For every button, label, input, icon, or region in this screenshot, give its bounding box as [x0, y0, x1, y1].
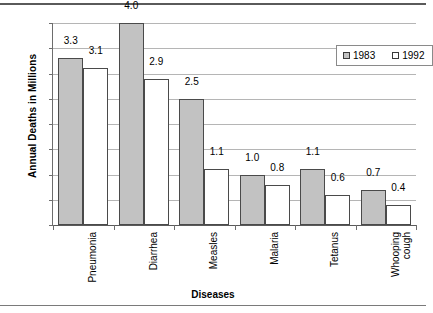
bar-value-label: 1.0: [245, 152, 259, 163]
legend-swatch-filled-square-icon: [343, 52, 350, 59]
legend-label: 1983: [353, 51, 375, 61]
bar-value-label: 2.5: [185, 76, 199, 87]
bar-value-label: 4.0: [124, 0, 138, 11]
x-tick-mark: [295, 225, 296, 230]
bar-value-label: 0.4: [391, 182, 405, 193]
bar-value-label: 3.3: [64, 35, 78, 46]
legend-item-1983: 1983: [343, 51, 375, 61]
bar: [240, 175, 265, 226]
x-tick-mark: [53, 225, 54, 230]
bar: [300, 169, 325, 225]
legend-item-1992: 1992: [392, 51, 424, 61]
x-category-label: Tetanus: [329, 232, 340, 267]
chart-legend: 1983 1992: [336, 45, 433, 66]
bar-value-label: 2.9: [149, 56, 163, 67]
bar-value-label: 0.8: [270, 162, 284, 173]
x-tick-mark: [235, 225, 236, 230]
x-tick-mark: [416, 225, 417, 230]
bar-group: 3.33.1: [53, 23, 114, 225]
x-category-label: Whooping cough: [390, 232, 412, 290]
bar: [325, 195, 350, 225]
bar: [144, 79, 169, 225]
bar-value-label: 0.6: [331, 172, 345, 183]
page-rule-bottom: [0, 305, 426, 306]
bar: [386, 205, 411, 225]
bar-value-label: 0.7: [366, 167, 380, 178]
x-category-label: Measles: [208, 232, 219, 269]
bar: [179, 99, 204, 225]
legend-swatch-empty-square-icon: [392, 52, 399, 59]
plot-area: 00.511.522.533.54 3.33.14.02.92.51.11.00…: [52, 23, 416, 226]
bar: [361, 190, 386, 225]
bar: [58, 58, 83, 225]
bar: [119, 23, 144, 225]
bar-value-label: 1.1: [210, 146, 224, 157]
x-tick-mark: [174, 225, 175, 230]
bar-group: 4.02.9: [114, 23, 175, 225]
x-category-label: Pneumonia: [87, 232, 98, 283]
x-category-label: Malaria: [269, 232, 280, 265]
x-category-label: Diarrhea: [148, 232, 159, 270]
bar: [204, 169, 229, 225]
x-axis-title: Diseases: [0, 289, 426, 300]
bar-group: 2.51.1: [174, 23, 235, 225]
y-axis-title: Annual Deaths in Millions: [25, 31, 41, 201]
page-rule-top: [0, 3, 426, 5]
bar-group: 1.00.8: [235, 23, 296, 225]
x-tick-mark: [114, 225, 115, 230]
legend-label: 1992: [402, 51, 424, 61]
bar-value-label: 3.1: [89, 45, 103, 56]
bar: [83, 68, 108, 225]
bar-chart-figure: Annual Deaths in Millions 00.511.522.533…: [0, 8, 426, 303]
bar: [265, 185, 290, 225]
bar-value-label: 1.1: [306, 146, 320, 157]
x-tick-mark: [356, 225, 357, 230]
